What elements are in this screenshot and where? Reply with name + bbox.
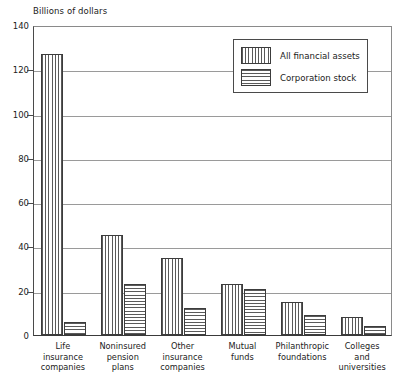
y-tick-label: 100 <box>3 110 29 120</box>
y-tick-mark <box>27 203 33 204</box>
bar <box>221 284 243 335</box>
y-tick-label: 120 <box>3 65 29 75</box>
y-tick-label: 20 <box>3 287 29 297</box>
gridline <box>34 293 391 294</box>
y-tick-mark <box>27 159 33 160</box>
legend-item-corporation-stock: Corporation stock <box>241 69 356 86</box>
y-tick-label: 40 <box>3 242 29 252</box>
bar <box>244 289 266 336</box>
x-axis-label: Noninsured pension plans <box>93 341 153 373</box>
bar <box>341 317 363 335</box>
x-axis-label: Life insurance companies <box>33 341 93 373</box>
y-tick-label: 140 <box>3 21 29 31</box>
y-tick-mark <box>27 247 33 248</box>
legend-label-all-financial-assets: All financial assets <box>280 51 360 61</box>
x-axis-label: Other insurance companies <box>153 341 213 373</box>
gridline <box>34 116 391 117</box>
legend-swatch-vertical-hatch-icon <box>241 47 271 64</box>
chart-legend: All financial assets Corporation stock <box>233 39 368 93</box>
y-tick-label: 80 <box>3 154 29 164</box>
x-axis-label: Philanthropic foundations <box>272 341 332 362</box>
bar <box>124 284 146 335</box>
bar <box>101 235 123 335</box>
x-axis-label: Mutual funds <box>213 341 273 362</box>
bar <box>184 308 206 335</box>
x-axis-label: Colleges and universities <box>332 341 392 373</box>
gridline <box>34 248 391 249</box>
y-tick-label: 0 <box>3 331 29 341</box>
bar <box>304 315 326 335</box>
bar <box>41 54 63 335</box>
bar <box>161 258 183 336</box>
bar <box>281 302 303 335</box>
y-tick-mark <box>27 292 33 293</box>
gridline <box>34 204 391 205</box>
y-tick-mark <box>27 70 33 71</box>
legend-swatch-horizontal-hatch-icon <box>241 69 271 86</box>
legend-item-all-financial-assets: All financial assets <box>241 47 360 64</box>
gridline <box>34 160 391 161</box>
y-tick-mark <box>27 115 33 116</box>
legend-label-corporation-stock: Corporation stock <box>280 73 356 83</box>
bar <box>364 326 386 335</box>
bar <box>64 322 86 335</box>
bar-chart: Billions of dollars 020406080100120140 L… <box>0 0 411 382</box>
y-tick-label: 60 <box>3 198 29 208</box>
y-axis-title: Billions of dollars <box>33 6 107 16</box>
